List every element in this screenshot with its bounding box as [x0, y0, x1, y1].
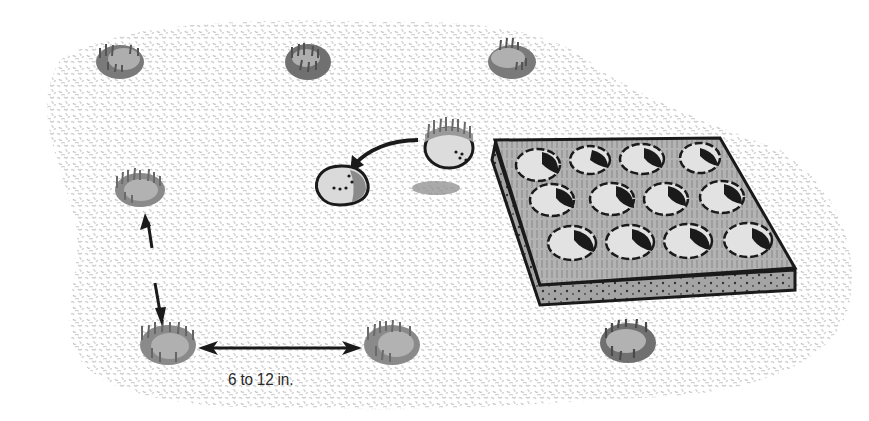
diagram-illustration: [0, 0, 869, 421]
spacing-label: 6 to 12 in.: [228, 370, 293, 390]
planting-diagram: 6 to 12 in.: [0, 0, 869, 421]
soil-plug-icon: [316, 166, 368, 205]
hole-shadow: [412, 181, 460, 195]
